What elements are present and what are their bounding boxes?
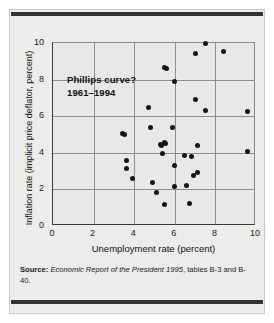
annotation-line-2: 1961–1994 [67,86,136,99]
data-point [203,108,208,113]
data-point [203,41,208,46]
data-point [170,125,175,130]
data-point [122,132,127,137]
data-point [148,125,153,130]
y-tick-label: 0 [44,220,49,230]
x-axis-title: Unemployment rate (percent) [52,243,255,254]
y-tick-label: 8 [44,74,49,84]
data-point [187,201,192,206]
data-point [163,141,168,146]
y-axis-title: Inflation rate (implicit price deflator,… [24,47,34,230]
data-point [162,202,167,207]
x-tick-label: 8 [212,228,217,238]
data-point [150,180,155,185]
plot-area: Phillips curve? 1961–1994 [52,42,255,225]
data-point [154,190,159,195]
x-tick-label: 6 [171,228,176,238]
data-point [195,143,200,148]
gridline-vertical [94,43,95,224]
gridline-horizontal [53,116,254,117]
data-point [124,158,129,163]
x-tick-label: 10 [250,228,260,238]
y-tick-label: 10 [44,37,54,47]
data-point [172,79,177,84]
figure-container: Phillips curve? 1961–1994 0246810 024681… [0,0,274,323]
gridline-vertical [175,43,176,224]
source-title: Economic Report of the President 1995 [50,265,183,274]
data-point [124,166,129,171]
top-rule [11,12,263,16]
data-point [193,97,198,102]
data-point [221,49,226,54]
y-tick-label: 6 [44,110,49,120]
gridline-vertical [215,43,216,224]
data-point [146,105,151,110]
y-tick-label: 4 [44,147,49,157]
data-point [195,170,200,175]
x-tick-label: 2 [90,228,95,238]
chart-annotation: Phillips curve? 1961–1994 [67,73,136,99]
data-point [182,153,187,158]
y-tick-label: 2 [44,183,49,193]
data-point [164,66,169,71]
data-point [245,109,250,114]
data-point [130,176,135,181]
plot-wrapper: Phillips curve? 1961–1994 [52,42,255,225]
x-tick-label: 4 [131,228,136,238]
source-label: Source: [20,265,48,274]
data-point [160,151,165,156]
gridline-vertical [134,43,135,224]
bottom-rule [11,300,263,304]
data-point [184,183,189,188]
gridline-horizontal [53,153,254,154]
data-point [172,184,177,189]
x-tick-label: 0 [49,228,54,238]
source-note: Source: Economic Report of the President… [20,264,254,286]
data-point [172,163,177,168]
data-point [193,51,198,56]
annotation-line-1: Phillips curve? [67,73,136,86]
data-point [189,154,194,159]
